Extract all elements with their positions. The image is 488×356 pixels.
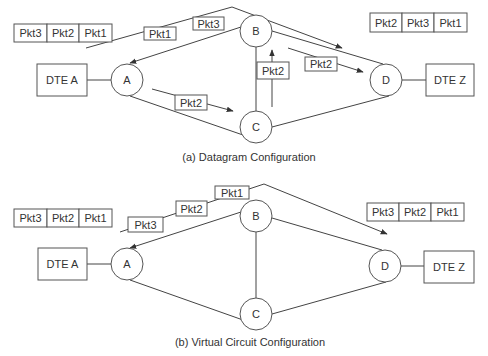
packet-label: Pkt3: [407, 17, 429, 29]
caption-datagram: (a) Datagram Configuration: [182, 151, 315, 163]
link-c-to-d: [272, 96, 389, 127]
packet-label: Pkt3: [134, 219, 156, 231]
packet-label: Pkt2: [404, 206, 426, 218]
destination-packet-queue: Pkt2 Pkt3 Pkt1: [370, 13, 467, 32]
node-c-label: C: [252, 308, 260, 320]
dte-a-label: DTE A: [47, 258, 79, 270]
node-a-label: A: [123, 258, 131, 270]
packet-label: Pkt1: [149, 28, 171, 40]
dte-a-label: DTE A: [46, 74, 78, 86]
network-diagram: Pkt3 Pkt2 Pkt1 Pkt2 Pkt3 Pkt1 Pkt1 Pkt3 …: [0, 0, 488, 356]
node-d-label: D: [381, 260, 389, 272]
link-c-to-d: [272, 282, 386, 314]
packet-label: Pkt2: [262, 65, 284, 77]
packet-label: Pkt2: [180, 97, 202, 109]
packet-label: Pkt1: [439, 17, 461, 29]
packet-label: Pkt2: [52, 212, 74, 224]
packet-label: Pkt3: [19, 212, 41, 224]
link-a-to-c: [130, 280, 243, 320]
datagram-configuration: Pkt3 Pkt2 Pkt1 Pkt2 Pkt3 Pkt1 Pkt1 Pkt3 …: [14, 7, 474, 163]
packet-label: Pkt3: [197, 18, 219, 30]
virtual-circuit-configuration: Pkt3 Pkt2 Pkt1 Pkt3 Pkt2 Pkt1 Pkt3 Pkt2 …: [14, 184, 474, 348]
dte-z-label: DTE Z: [433, 261, 465, 273]
packet-label: Pkt2: [375, 17, 397, 29]
node-d-label: D: [382, 74, 390, 86]
packet-label: Pkt1: [84, 27, 106, 39]
source-packet-queue: Pkt3 Pkt2 Pkt1: [14, 24, 112, 42]
packet-label: Pkt1: [84, 212, 106, 224]
packet-label: Pkt3: [19, 27, 41, 39]
packet-label: Pkt2: [310, 58, 332, 70]
destination-packet-queue: Pkt3 Pkt2 Pkt1: [367, 203, 464, 221]
node-a-label: A: [123, 74, 131, 86]
node-b-label: B: [252, 210, 259, 222]
packet-label: Pkt2: [180, 203, 202, 215]
packet-label: Pkt3: [372, 206, 394, 218]
caption-virtual-circuit: (b) Virtual Circuit Configuration: [175, 336, 325, 348]
node-b-label: B: [252, 25, 259, 37]
packet-label: Pkt1: [436, 206, 458, 218]
node-c-label: C: [252, 121, 260, 133]
packet-label: Pkt2: [52, 27, 74, 39]
packet-label: Pkt1: [221, 187, 243, 199]
link-b-to-d: [272, 218, 382, 250]
source-packet-queue: Pkt3 Pkt2 Pkt1: [14, 209, 112, 227]
dte-z-label: DTE Z: [434, 74, 466, 86]
